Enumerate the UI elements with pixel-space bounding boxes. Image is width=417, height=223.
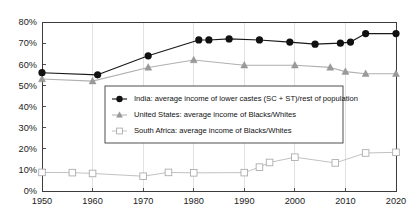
- data-point-south-africa: [292, 154, 299, 161]
- data-point-south-africa: [140, 173, 147, 180]
- legend-marker-india: [116, 96, 122, 102]
- data-point-south-africa: [362, 150, 369, 157]
- data-point-india: [195, 36, 202, 43]
- x-axis-tick-label: 2000: [285, 196, 305, 206]
- line-chart: India: average income of lower castes (S…: [0, 0, 417, 223]
- data-point-india: [337, 40, 344, 47]
- data-point-india: [94, 71, 101, 78]
- x-axis-tick-label: 1990: [234, 196, 254, 206]
- legend-marker-south-africa: [117, 128, 123, 134]
- legend-entry-south-africa[interactable]: South Africa: average income of Blacks/W…: [112, 126, 292, 135]
- y-axis-tick-label: 80%: [19, 17, 37, 27]
- data-point-south-africa: [190, 170, 197, 177]
- data-point-south-africa: [89, 170, 96, 177]
- data-point-south-africa: [266, 159, 273, 166]
- data-point-india: [311, 41, 318, 48]
- y-axis-tick-label: 20%: [19, 144, 37, 154]
- x-axis-tick-label: 1970: [133, 196, 153, 206]
- data-point-south-africa: [393, 149, 400, 156]
- data-point-south-africa: [165, 169, 172, 176]
- x-axis-tick-label: 1980: [183, 196, 203, 206]
- legend-entry-india[interactable]: India: average income of lower castes (S…: [112, 94, 358, 103]
- y-axis-tick-label: 50%: [19, 81, 37, 91]
- legend-label-south-africa: South Africa: average income of Blacks/W…: [134, 126, 292, 135]
- y-axis-tick-label: 30%: [19, 123, 37, 133]
- data-point-india: [362, 30, 369, 37]
- y-axis-tick-label: 60%: [19, 60, 37, 70]
- y-axis-tick-label: 0%: [24, 186, 37, 196]
- legend-label-united-states: United States: average income of Blacks/…: [134, 110, 296, 119]
- y-axis-tick-label: 70%: [19, 38, 37, 48]
- data-point-india: [392, 30, 399, 37]
- data-point-india: [256, 36, 263, 43]
- y-axis-labels-group: 0%10%20%30%40%50%60%70%80%: [19, 17, 37, 196]
- chart-container: India: average income of lower castes (S…: [0, 0, 417, 223]
- chart-legend: India: average income of lower castes (S…: [105, 86, 358, 143]
- data-point-india: [38, 69, 45, 76]
- data-point-south-africa: [332, 160, 339, 167]
- data-point-south-africa: [241, 169, 248, 176]
- x-axis-tick-label: 1950: [32, 196, 52, 206]
- x-axis-tick-label: 2010: [335, 196, 355, 206]
- data-point-south-africa: [69, 169, 76, 176]
- legend-label-india: India: average income of lower castes (S…: [134, 94, 358, 103]
- y-axis-tick-label: 10%: [19, 165, 37, 175]
- data-point-india: [347, 38, 354, 45]
- x-axis-tick-label: 2020: [386, 196, 406, 206]
- legend-entry-united-states[interactable]: United States: average income of Blacks/…: [112, 110, 296, 119]
- data-point-india: [205, 36, 212, 43]
- y-axis-tick-label: 40%: [19, 102, 37, 112]
- x-axis-tick-label: 1960: [82, 196, 102, 206]
- data-point-south-africa: [39, 169, 46, 176]
- data-point-india: [145, 52, 152, 59]
- data-point-india: [226, 35, 233, 42]
- data-point-india: [286, 38, 293, 45]
- data-point-south-africa: [256, 164, 263, 171]
